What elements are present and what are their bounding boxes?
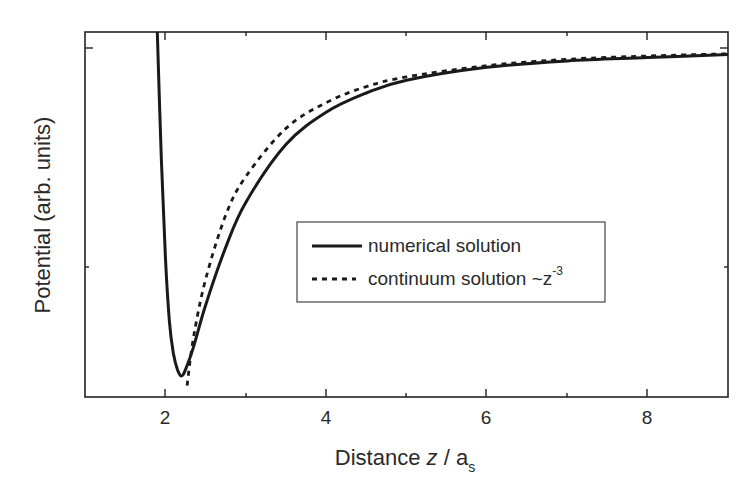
x-tick-label: 6 (481, 407, 492, 428)
x-tick-labels: 2 4 6 8 (160, 407, 653, 428)
legend-label-continuum: continuum solution ~z-3 (368, 264, 563, 289)
x-tick-label: 8 (642, 407, 653, 428)
x-tick-label: 4 (321, 407, 332, 428)
legend-box (297, 222, 605, 302)
legend: numerical solution continuum solution ~z… (297, 222, 605, 302)
x-axis-ticks (85, 32, 728, 397)
x-axis-title: Distance z / as (335, 445, 475, 475)
legend-label-numerical: numerical solution (368, 235, 521, 256)
numerical-solution-curve (157, 32, 728, 376)
x-tick-label: 2 (160, 407, 171, 428)
y-axis-title: Potential (arb. units) (30, 117, 55, 314)
potential-chart: 2 4 6 8 Distance z / as Potential (arb. … (0, 0, 752, 501)
plot-frame (85, 32, 728, 397)
continuum-solution-curve (187, 54, 728, 386)
